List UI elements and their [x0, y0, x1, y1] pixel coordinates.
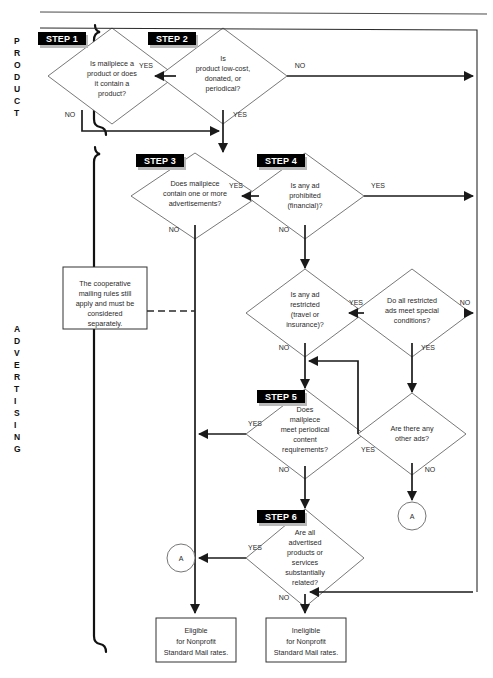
advertising-brace: [94, 147, 106, 652]
step5-badge: STEP 5: [257, 390, 307, 406]
edge-label-step5-yes: YES: [248, 420, 262, 427]
edge-label-step1-yes: YES: [139, 62, 153, 69]
svg-text:Does: Does: [297, 405, 314, 414]
svg-text:D: D: [14, 336, 21, 346]
edge-label-otherads-no: NO: [425, 466, 436, 473]
svg-text:(travel or: (travel or: [291, 310, 320, 319]
step6-badge-text: STEP 6: [265, 512, 297, 522]
svg-text:The cooperative: The cooperative: [79, 279, 131, 288]
svg-text:donated, or: donated, or: [205, 74, 242, 83]
step4-text: Is any ad prohibited (financial)?: [287, 181, 322, 210]
svg-text:product?: product?: [98, 89, 126, 98]
edge-label-restricted-no: NO: [279, 344, 290, 351]
svg-text:considered: considered: [87, 309, 122, 318]
svg-text:Is any ad: Is any ad: [290, 181, 319, 190]
svg-text:services: services: [292, 558, 319, 567]
svg-text:it contain a: it contain a: [95, 79, 130, 88]
flowchart-canvas: PRODUCT P R O D U C T A D V E R T I S I …: [0, 0, 493, 678]
edge-label-step4-no: NO: [279, 226, 290, 233]
svg-text:advertised: advertised: [288, 538, 321, 547]
svg-text:Ineligible: Ineligible: [292, 626, 320, 635]
step6-badge: STEP 6: [257, 510, 307, 526]
svg-text:N: N: [14, 432, 21, 442]
edge-label-step6-no: NO: [279, 594, 290, 601]
svg-text:Is any ad: Is any ad: [290, 290, 319, 299]
connector-a-right-label: A: [410, 513, 415, 520]
svg-text:E: E: [14, 360, 20, 370]
svg-text:advertisements?: advertisements?: [169, 199, 222, 208]
step1-badge: STEP 1: [38, 32, 88, 48]
edge-label-otherads-yes: YES: [361, 446, 375, 453]
step4-badge-text: STEP 4: [265, 156, 297, 166]
step2-badge: STEP 2: [148, 32, 198, 48]
svg-text:other ads?: other ads?: [395, 434, 429, 443]
otherads-text: Are there any other ads?: [390, 424, 434, 443]
step3-badge-text: STEP 3: [144, 156, 176, 166]
svg-text:apply and must be: apply and must be: [76, 299, 135, 308]
svg-text:S: S: [14, 408, 20, 418]
svg-text:Is mailpiece a: Is mailpiece a: [90, 59, 134, 68]
svg-text:restricted: restricted: [290, 300, 320, 309]
svg-text:periodical?: periodical?: [206, 84, 241, 93]
svg-text:R: R: [14, 372, 21, 382]
svg-text:substantially: substantially: [285, 568, 325, 577]
svg-text:ads meet special: ads meet special: [385, 306, 439, 315]
edge-label-step5-no: NO: [279, 466, 290, 473]
edge-label-step3-yes: YES: [229, 182, 243, 189]
edge-label-step3-no: NO: [169, 226, 180, 233]
svg-text:U: U: [14, 84, 21, 94]
svg-text:C: C: [14, 96, 21, 106]
svg-text:T: T: [14, 384, 20, 394]
svg-text:separately.: separately.: [88, 319, 123, 328]
svg-text:G: G: [14, 444, 21, 454]
section-label-advertising: A D V E R T I S I N G: [14, 324, 21, 454]
svg-text:O: O: [14, 60, 21, 70]
svg-text:Standard Mail rates.: Standard Mail rates.: [164, 648, 228, 657]
svg-text:for Nonprofit: for Nonprofit: [176, 637, 216, 646]
step5-badge-text: STEP 5: [265, 392, 297, 402]
svg-text:product low-cost,: product low-cost,: [196, 64, 250, 73]
svg-text:I: I: [14, 396, 17, 406]
svg-text:Standard Mail rates.: Standard Mail rates.: [274, 648, 338, 657]
svg-text:products or: products or: [287, 548, 324, 557]
svg-text:A: A: [14, 324, 21, 334]
svg-text:mailing rules still: mailing rules still: [79, 289, 132, 298]
section-label-product: PRODUCT P R O D U C T: [14, 36, 21, 118]
edge-label-step2-no: NO: [295, 62, 306, 69]
svg-text:P: P: [14, 36, 20, 46]
svg-text:meet periodical: meet periodical: [281, 425, 330, 434]
svg-text:Is: Is: [220, 54, 226, 63]
svg-text:insurance)?: insurance)?: [286, 320, 324, 329]
edge-label-step4-yes: YES: [371, 182, 385, 189]
edge-label-step2-yes: YES: [233, 111, 247, 118]
svg-text:(financial)?: (financial)?: [287, 201, 322, 210]
svg-text:contain one or more: contain one or more: [163, 189, 227, 198]
edge-label-restricted-yes: YES: [349, 299, 363, 306]
connector-a-left-label: A: [179, 555, 184, 562]
svg-text:content: content: [293, 435, 317, 444]
svg-text:Are all: Are all: [295, 528, 316, 537]
step3-text: Does mailpiece contain one or more adver…: [163, 179, 227, 208]
svg-text:conditions?: conditions?: [394, 316, 430, 325]
svg-text:Are there any: Are there any: [390, 424, 434, 433]
edge-label-step6-yes: YES: [248, 544, 262, 551]
step1-badge-text: STEP 1: [46, 34, 78, 44]
edge-label-special-no: NO: [460, 299, 471, 306]
svg-text:Eligible: Eligible: [184, 626, 207, 635]
svg-text:Do all restricted: Do all restricted: [387, 296, 437, 305]
top-rule: [40, 12, 487, 14]
svg-text:V: V: [14, 348, 20, 358]
step3-badge: STEP 3: [136, 154, 186, 170]
svg-text:Does mailpiece: Does mailpiece: [170, 179, 219, 188]
edge-label-special-yes: YES: [421, 344, 435, 351]
edge-label-step1-no: NO: [65, 111, 76, 118]
svg-text:mailpiece: mailpiece: [290, 415, 320, 424]
svg-text:requirements?: requirements?: [282, 445, 328, 454]
svg-text:T: T: [14, 108, 20, 118]
step2-badge-text: STEP 2: [156, 34, 188, 44]
svg-text:I: I: [14, 420, 17, 430]
svg-text:product or does: product or does: [87, 69, 137, 78]
svg-text:related?: related?: [292, 578, 318, 587]
svg-text:prohibited: prohibited: [289, 191, 321, 200]
svg-text:D: D: [14, 72, 21, 82]
